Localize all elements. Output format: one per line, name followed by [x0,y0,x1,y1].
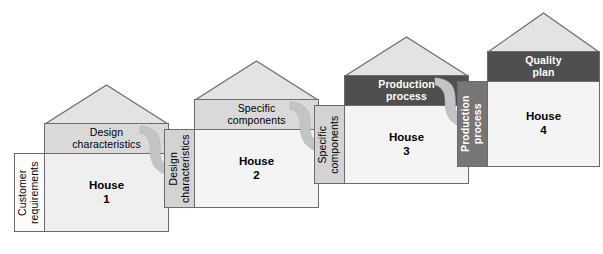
house-3-side-line1: Specific [317,126,329,164]
house-2-body-line2: 2 [253,169,259,181]
house-1-body-line1: House [89,179,124,191]
house-4-body-line2: 4 [540,124,546,136]
house-2-side-line2: characteristics [179,134,191,203]
house-1-header-line1: Design [90,126,123,138]
house-3-header-line2: process [386,90,427,102]
house-4-side-line1: Production [460,96,472,152]
house-4-header-line2: plan [532,66,554,78]
house-3-header-line1: Production [378,78,434,90]
house-4-side-line2: process [472,104,484,145]
house-1-side-line2: requirements [29,161,41,223]
house-4-header: Quality plan [487,51,600,82]
house-4-roof-icon [487,12,600,53]
house-3-roof-icon [344,36,469,77]
house-4-side-panel: Production process [457,81,488,167]
house-1-roof-icon [44,84,169,125]
house-2-body-line1: House [239,155,274,167]
house-3-side-panel: Specific components [314,105,345,184]
house-4-body-line1: House [526,110,561,122]
house-2-header-line1: Specific [238,102,276,114]
house-1-header-line2: characteristics [72,138,141,150]
qfd-four-houses-diagram: Design characteristics Customer requirem… [0,0,603,254]
house-4-body: House 4 [487,81,600,167]
house-2-side-panel: Design characteristics [164,129,195,208]
house-3-body-line2: 3 [403,145,409,157]
house-2-side-line1: Design [167,152,179,185]
house-3-side-line2: components [329,115,341,173]
house-3-body-line1: House [389,131,424,143]
house-1-side-line1: Customer [17,169,29,215]
house-2-header-line2: components [227,114,285,126]
house-1-body-line2: 1 [103,193,109,205]
house-2-roof-icon [194,60,319,101]
house-1-side-panel: Customer requirements [14,153,45,232]
house-4-header-line1: Quality [525,54,561,66]
